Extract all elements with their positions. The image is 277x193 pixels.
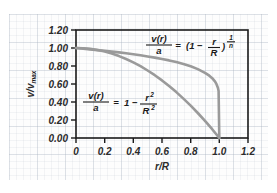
x-tick-label: 1.2: [241, 146, 255, 157]
x-tick-label: 0.2: [98, 146, 112, 157]
y-tick-label: 0.60: [49, 79, 69, 90]
y-tick-label: 0.00: [49, 133, 69, 144]
x-tick-label: 0.8: [184, 146, 198, 157]
x-tick-label: 0.4: [126, 146, 140, 157]
y-axis-tick-labels: 1.20 1.00 0.80 0.60 0.40 0.20 0.00: [49, 25, 69, 144]
y-tick-label: 1.20: [49, 25, 69, 36]
turbulent-eq-r-numerator: r: [212, 36, 217, 47]
x-tick-label: 0: [73, 146, 79, 157]
turbulent-eq-rhs-close: ): [221, 41, 225, 52]
laminar-eq-r-exponent: 2: [149, 91, 154, 98]
turbulent-eq-exponent-numerator: 1: [229, 34, 233, 41]
turbulent-eq-exponent-denominator: n: [229, 42, 233, 49]
y-tick-label: 1.00: [49, 43, 69, 54]
turbulent-eq-numerator: v(r): [151, 33, 166, 44]
x-axis-tick-labels: 0 0.2 0.4 0.6 0.8 1.0 1.2: [73, 146, 255, 157]
laminar-eq-numerator: v(r): [88, 90, 103, 101]
laminar-eq-equals: =: [113, 97, 119, 108]
chart-figure: 1.20 1.00 0.80 0.60 0.40 0.20 0.00 0 0.2…: [0, 0, 277, 193]
turbulent-eq-rhs-open: (1 −: [186, 40, 203, 51]
turbulent-eq-equals: =: [175, 40, 181, 51]
y-tick-label: 0.40: [49, 97, 69, 108]
y-tick-label: 0.20: [49, 115, 69, 126]
laminar-equation-annotation: v(r) a = 1 − r 2 R 2: [83, 90, 157, 116]
turbulent-equation-annotation: v(r) a = (1 − r R ) 1 n: [146, 33, 235, 58]
laminar-eq-one-minus: 1 −: [124, 97, 138, 108]
laminar-eq-denominator: a: [93, 102, 98, 113]
velocity-profile-chart: 1.20 1.00 0.80 0.60 0.40 0.20 0.00 0 0.2…: [0, 0, 277, 193]
x-tick-label: 1.0: [212, 146, 226, 157]
laminar-eq-R-denominator: R: [143, 105, 150, 116]
y-axis-title: v/vmax: [25, 70, 37, 97]
y-tick-label: 0.80: [49, 61, 69, 72]
turbulent-eq-denominator: a: [156, 45, 161, 56]
y-axis-title-sub: max: [30, 70, 37, 83]
laminar-eq-R-exponent: 2: [150, 104, 155, 111]
x-axis-title: r/R: [155, 161, 170, 172]
svg-text:v/vmax: v/vmax: [25, 70, 37, 97]
x-tick-label: 0.6: [155, 146, 169, 157]
turbulent-eq-R-denominator: R: [211, 47, 218, 58]
